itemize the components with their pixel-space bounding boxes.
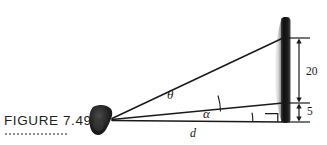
dimension-label-screen-height: 20 [306,65,318,77]
arrowhead-down-5 [296,117,301,122]
right-angle-marker-icon [265,114,278,122]
dimension-label-screen-offset: 5 [307,105,313,117]
arrowhead-up-5 [296,103,301,108]
baseline-distance-d [112,121,283,123]
distance-label-d: d [190,126,196,141]
sightline-upper [112,38,283,119]
angle-label-alpha: α [203,106,210,122]
figure-container: FIGURE 7.49 θ α d 20 5 [0,0,327,145]
caption-underline-rule [5,133,67,137]
projection-screen-icon [281,17,291,123]
figure-caption: FIGURE 7.49 [4,113,92,128]
arrowhead-up-20 [296,39,301,44]
eye-observer-icon [89,105,112,135]
arrowhead-down-20 [296,98,301,103]
sightline-lower [112,103,283,120]
angle-label-theta: θ [167,87,173,103]
angle-arc-alpha [252,113,253,121]
